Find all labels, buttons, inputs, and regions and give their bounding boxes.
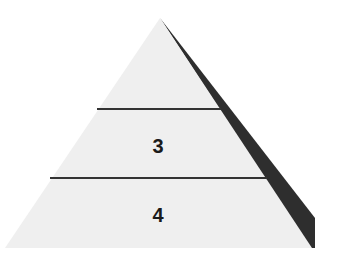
level-label-4: 4	[152, 204, 164, 226]
pyramid-diagram: 3 4	[0, 0, 338, 253]
level-label-3: 3	[152, 135, 163, 157]
